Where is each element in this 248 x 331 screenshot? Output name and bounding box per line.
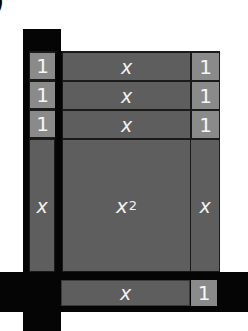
x-tile-vertical-left: x bbox=[29, 139, 55, 272]
unit-tile: 1 bbox=[192, 53, 219, 80]
x-tile-vertical-right: x bbox=[190, 139, 220, 272]
x-tile-bottom: x bbox=[61, 280, 190, 306]
x-squared-base: x bbox=[116, 194, 128, 218]
figure-label-fragment: ) bbox=[0, 0, 4, 16]
unit-tile: 1 bbox=[30, 82, 55, 108]
x-tile: x bbox=[62, 81, 191, 110]
unit-tile: 1 bbox=[30, 53, 55, 79]
unit-tile: 1 bbox=[192, 82, 219, 109]
unit-tile: 1 bbox=[30, 111, 55, 137]
unit-tile: 1 bbox=[192, 111, 219, 138]
x-tile: x bbox=[62, 52, 191, 81]
unit-tile-bottom: 1 bbox=[191, 280, 217, 306]
x-tile: x bbox=[62, 110, 191, 139]
x-squared-tile: x2 bbox=[62, 139, 191, 272]
x-squared-exponent: 2 bbox=[129, 198, 137, 213]
inner-vertical-bar bbox=[55, 51, 62, 273]
